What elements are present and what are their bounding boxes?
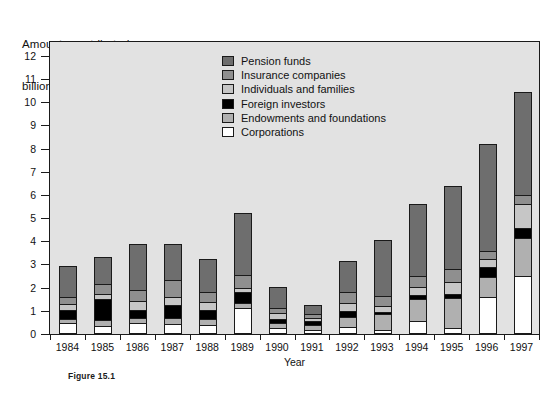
y-tick-label: 3 xyxy=(30,258,36,270)
x-tick-mark xyxy=(295,335,296,340)
bar-segment-1997-insurance-companies xyxy=(514,195,532,205)
bar-segment-1984-individuals-and-families xyxy=(59,304,77,311)
y-tick-label: 9 xyxy=(30,119,36,131)
y-tick-label: 1 xyxy=(30,305,36,317)
x-tick-label-1994: 1994 xyxy=(405,341,428,353)
bar-1984 xyxy=(59,42,77,334)
bar-segment-1996-endowments-and-foundations xyxy=(479,277,497,298)
y-tick-mark xyxy=(41,218,49,219)
x-tick-label-1989: 1989 xyxy=(230,341,253,353)
bar-segment-1992-endowments-and-foundations xyxy=(339,317,357,328)
legend-swatch-icon xyxy=(222,99,234,109)
legend-swatch-icon xyxy=(222,70,234,80)
y-tick-mark xyxy=(41,311,49,312)
bar-segment-1987-insurance-companies xyxy=(164,280,182,298)
bar-segment-1986-insurance-companies xyxy=(129,290,147,301)
legend-label: Foreign investors xyxy=(241,98,325,110)
bar-segment-1993-pension-funds xyxy=(374,240,392,297)
bar-segment-1994-corporations xyxy=(409,321,427,334)
bar-segment-1993-insurance-companies xyxy=(374,296,392,307)
bar-1987 xyxy=(164,42,182,334)
bar-segment-1988-pension-funds xyxy=(199,259,217,294)
bar-segment-1996-insurance-companies xyxy=(479,251,497,260)
legend-label: Corporations xyxy=(241,126,304,138)
x-tick-mark xyxy=(50,335,51,340)
bar-segment-1987-pension-funds xyxy=(164,244,182,281)
bar-segment-1985-insurance-companies xyxy=(94,284,112,294)
bar-segment-1997-endowments-and-foundations xyxy=(514,238,532,277)
bar-1994 xyxy=(409,42,427,334)
legend-label: Insurance companies xyxy=(241,69,346,81)
x-tick-label-1991: 1991 xyxy=(300,341,323,353)
y-tick-label: 4 xyxy=(30,235,36,247)
bar-segment-1989-insurance-companies xyxy=(234,275,252,289)
y-tick-label: 2 xyxy=(30,282,36,294)
bar-segment-1987-individuals-and-families xyxy=(164,297,182,306)
y-tick-mark xyxy=(41,149,49,150)
legend-label: Endowments and foundations xyxy=(241,112,386,124)
bar-segment-1991-pension-funds xyxy=(304,305,322,315)
bar-segment-1992-individuals-and-families xyxy=(339,303,357,312)
y-tick-mark xyxy=(41,241,49,242)
y-tick-mark xyxy=(41,288,49,289)
bar-segment-1984-pension-funds xyxy=(59,266,77,298)
bar-segment-1984-corporations xyxy=(59,323,77,334)
bar-segment-1984-insurance-companies xyxy=(59,297,77,305)
bar-segment-1995-endowments-and-foundations xyxy=(444,298,462,329)
y-tick-label: 10 xyxy=(24,96,36,108)
plot-frame: Pension fundsInsurance companiesIndividu… xyxy=(49,41,540,335)
bar-segment-1986-corporations xyxy=(129,323,147,334)
bar-segment-1996-individuals-and-families xyxy=(479,259,497,268)
bar-segment-1997-pension-funds xyxy=(514,92,532,196)
y-tick-mark xyxy=(41,79,49,80)
bar-segment-1997-corporations xyxy=(514,276,532,334)
x-tick-mark xyxy=(434,335,435,340)
bar-segment-1997-individuals-and-families xyxy=(514,204,532,228)
legend-label: Individuals and families xyxy=(241,83,355,95)
legend-label: Pension funds xyxy=(241,55,311,67)
bar-segment-1988-endowments-and-foundations xyxy=(199,319,217,326)
bar-segment-1985-corporations xyxy=(94,326,112,334)
y-tick-mark xyxy=(41,172,49,173)
y-axis: 0123456789101112 xyxy=(0,41,49,335)
bar-1988 xyxy=(199,42,217,334)
y-tick-mark xyxy=(41,195,49,196)
bar-segment-1986-pension-funds xyxy=(129,244,147,291)
legend-item-corporations: Corporations xyxy=(222,125,386,139)
y-tick-mark xyxy=(41,125,49,126)
bar-segment-1994-endowments-and-foundations xyxy=(409,299,427,322)
x-axis: 1984198519861987198819891990199119921993… xyxy=(49,335,540,357)
legend: Pension fundsInsurance companiesIndividu… xyxy=(218,52,390,141)
bar-segment-1986-individuals-and-families xyxy=(129,301,147,311)
legend-swatch-icon xyxy=(222,113,234,123)
x-tick-mark xyxy=(260,335,261,340)
bar-segment-1988-individuals-and-families xyxy=(199,302,217,311)
bar-segment-1985-individuals-and-families xyxy=(94,294,112,301)
bar-1985 xyxy=(94,42,112,334)
y-tick-mark xyxy=(41,264,49,265)
x-tick-label-1993: 1993 xyxy=(370,341,393,353)
bar-segment-1987-endowments-and-foundations xyxy=(164,318,182,325)
bar-segment-1993-individuals-and-families xyxy=(374,306,392,313)
bar-segment-1988-corporations xyxy=(199,325,217,334)
legend-swatch-icon xyxy=(222,84,234,94)
legend-swatch-icon xyxy=(222,127,234,137)
bar-segment-1995-individuals-and-families xyxy=(444,282,462,295)
legend-item-pension-funds: Pension funds xyxy=(222,54,386,68)
bar-segment-1985-pension-funds xyxy=(94,257,112,286)
bar-1986 xyxy=(129,42,147,334)
bar-segment-1990-endowments-and-foundations xyxy=(269,323,287,330)
y-tick-label: 11 xyxy=(25,73,36,85)
bar-segment-1996-pension-funds xyxy=(479,144,497,252)
y-tick-mark xyxy=(41,334,49,335)
y-tick-label: 7 xyxy=(30,166,36,178)
x-tick-label-1996: 1996 xyxy=(475,341,498,353)
bar-segment-1986-foreign-investors xyxy=(129,310,147,319)
bar-segment-1997-foreign-investors xyxy=(514,228,532,239)
bar-segment-1992-pension-funds xyxy=(339,261,357,293)
x-tick-mark xyxy=(364,335,365,340)
bar-segment-1992-corporations xyxy=(339,327,357,334)
bar-segment-1985-endowments-and-foundations xyxy=(94,320,112,327)
x-tick-label-1987: 1987 xyxy=(161,341,184,353)
bar-segment-1985-foreign-investors xyxy=(94,299,112,321)
